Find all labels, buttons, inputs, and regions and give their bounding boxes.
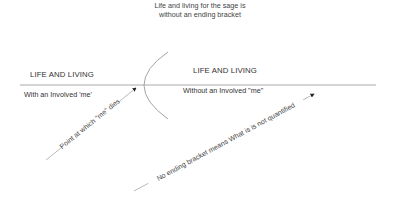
- death-point-label: Point at which "me" dies: [58, 97, 121, 150]
- right-heading: LIFE AND LIVING: [193, 66, 257, 75]
- right-subtext: Without an Involved "me": [183, 86, 263, 95]
- no-bracket-label: No ending bracket means What is is not q…: [156, 101, 297, 183]
- diagram-canvas: Point at which "me" dies No ending brack…: [0, 0, 400, 207]
- left-heading: LIFE AND LIVING: [30, 70, 94, 79]
- left-subtext: With an Involved 'me': [24, 90, 92, 99]
